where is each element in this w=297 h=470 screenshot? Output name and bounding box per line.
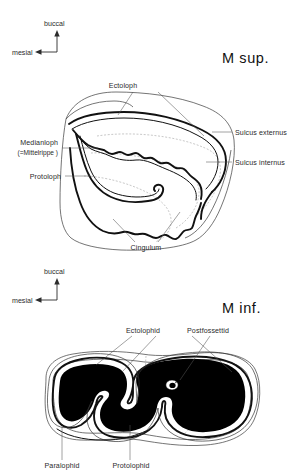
upper-molar-group: buccal mesial M sup. xyxy=(12,20,269,250)
label-ectoloph: Ectoloph xyxy=(109,82,137,90)
figure-root: buccal mesial M sup. xyxy=(0,0,297,470)
label-postfossettid: Postfossettid xyxy=(187,327,229,335)
upper-molar-title: M sup. xyxy=(222,50,269,66)
upper-inner-dashed-contour-2 xyxy=(91,153,199,228)
upper-inner-dashed-contour-1 xyxy=(97,134,220,216)
upper-medianloph-inner-line xyxy=(76,134,196,200)
arrow-up-icon xyxy=(54,278,59,285)
arrow-up-icon xyxy=(54,30,59,37)
lower-postfossettid-ring xyxy=(166,380,178,390)
leader-ectoloph-b xyxy=(158,92,204,136)
postfossettid-inner-ellipse xyxy=(169,383,175,388)
upper-orientation-indicator: buccal mesial xyxy=(12,20,65,57)
label-paralophid: Paralophid xyxy=(45,462,80,470)
label-protolophid: Protolophid xyxy=(113,462,150,470)
label-sulcus-externus: Sulcus externus xyxy=(235,129,287,137)
label-medianloph-alt: (=Mittelrippe ) xyxy=(18,149,59,157)
upper-buccal-label: buccal xyxy=(44,20,65,28)
label-cingulum: Cingulum xyxy=(131,244,162,252)
label-sulcus-internus: Sulcus internus xyxy=(235,159,285,167)
arrow-left-icon xyxy=(35,297,42,302)
leader-cingulum-a xyxy=(113,219,135,242)
label-protoloph: Protoloph xyxy=(30,173,61,181)
upper-mesial-contour xyxy=(66,101,133,119)
label-ectolophid: Ectolophid xyxy=(126,327,160,335)
upper-mesial-label: mesial xyxy=(12,49,33,57)
upper-protoloph-inner-line xyxy=(80,136,159,197)
upper-distal-contour xyxy=(185,150,231,238)
lower-orientation-indicator: buccal mesial xyxy=(12,268,65,305)
lower-buccal-label: buccal xyxy=(44,268,65,276)
upper-label-texts: Ectoloph Sulcus externus Sulcus internus… xyxy=(18,82,288,252)
upper-cingulum-crest xyxy=(70,148,201,239)
upper-medianloph-crest xyxy=(73,130,202,199)
arrow-left-icon xyxy=(35,49,42,54)
tooth-diagram-svg: buccal mesial M sup. xyxy=(0,0,297,470)
upper-protoloph-crest xyxy=(76,134,163,202)
label-medianloph: Medianloph xyxy=(20,139,58,147)
lower-molar-title: M inf. xyxy=(222,300,261,316)
lower-mesial-label: mesial xyxy=(12,297,33,305)
